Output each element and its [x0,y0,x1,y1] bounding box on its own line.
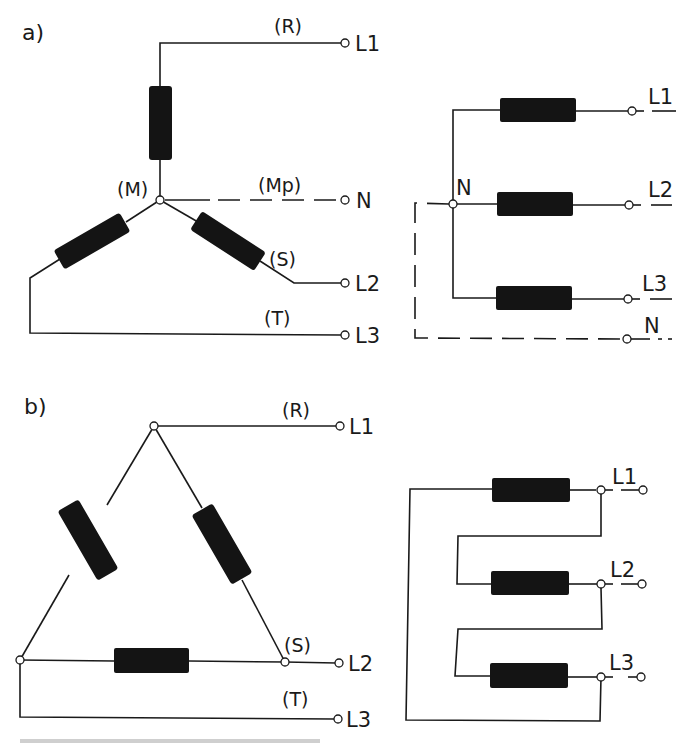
winding-s [190,211,266,271]
wire [285,662,336,663]
panel-a: a) (R) L1 (Mp) N (M) (S) L2 [22,15,676,348]
node-l3 [597,673,605,681]
winding-l3 [496,286,572,310]
neutral-point-label: (Mp) [258,174,301,196]
terminal-n[interactable] [341,196,349,204]
neutral-wire-dashed [415,203,623,339]
delta-node-t [16,656,24,664]
terminal-l2[interactable] [625,201,633,209]
wire [20,660,114,661]
delta-node-s [281,658,289,666]
terminal-l2-label: L2 [355,272,380,296]
terminal-l3-label: L3 [346,708,371,732]
terminal-n-label: N [356,189,372,213]
phase-r-label: (R) [274,15,302,37]
winding-l1 [500,98,576,122]
terminal-l3-label: L3 [642,272,667,296]
terminal-l3[interactable] [637,673,645,681]
winding-t [54,212,131,269]
terminal-l3-label: L3 [355,324,380,348]
phase-r-label: (R) [282,399,310,421]
terminal-l1-label: L1 [612,465,637,489]
terminal-l3[interactable] [334,715,342,723]
terminal-n-label: N [644,314,660,338]
phase-t-label: (T) [264,307,290,329]
wire [20,575,69,660]
winding-r [149,86,172,160]
star-connection: (R) L1 (Mp) N (M) (S) L2 [30,15,380,348]
node-l2 [597,580,605,588]
terminal-l3[interactable] [341,331,349,339]
terminal-l3[interactable] [624,295,632,303]
star-node [156,196,164,204]
wire [160,200,198,222]
wire [455,588,602,676]
terminal-l2[interactable] [341,279,349,287]
node-l1 [597,486,605,494]
terminal-l2[interactable] [638,580,646,588]
winding-r-s [192,503,253,584]
wire [154,426,202,508]
terminal-l2-label: L2 [610,558,635,582]
winding-l2 [497,192,573,216]
terminal-l1[interactable] [628,107,636,115]
terminal-n[interactable] [623,335,631,343]
panel-a-label: a) [22,20,44,45]
wire [457,494,601,584]
wire [189,661,285,662]
terminal-l1[interactable] [639,486,647,494]
terminal-l1[interactable] [336,422,344,430]
neutral-node-label: N [456,176,472,200]
terminal-l2-label: L2 [648,178,673,202]
phase-s-label: (S) [269,248,296,270]
wire [242,580,285,662]
winding-s-t [114,648,189,673]
phase-t-label: (T) [282,688,308,710]
wire [107,426,154,505]
star-point-label: (M) [117,178,148,200]
terminal-l1-label: L1 [349,415,374,439]
star-schematic: L1 L2 L3 N N [415,85,676,343]
winding-l1 [492,478,570,502]
delta-connection: (R) (S) (T) L1 L2 L3 [16,399,374,732]
winding-l2 [491,571,569,595]
winding-r-t [58,499,119,580]
neutral-node [449,200,457,208]
terminal-l2-label: L2 [348,652,373,676]
winding-l3 [490,663,568,688]
terminal-l3-label: L3 [609,651,634,675]
wire [126,200,160,222]
phase-s-label: (S) [284,634,311,656]
wire [160,43,341,86]
panel-b: b) [16,394,647,732]
terminal-l2[interactable] [335,659,343,667]
terminal-l1-label: L1 [648,85,673,109]
wire [30,259,341,335]
three-phase-connection-diagram: a) (R) L1 (Mp) N (M) (S) L2 [0,0,692,743]
panel-b-label: b) [24,394,47,419]
terminal-l1[interactable] [341,39,349,47]
terminal-l1-label: L1 [355,32,380,56]
delta-node-r [150,422,158,430]
caption-remnant [20,739,320,743]
delta-schematic: L1 L2 L3 [406,465,647,721]
